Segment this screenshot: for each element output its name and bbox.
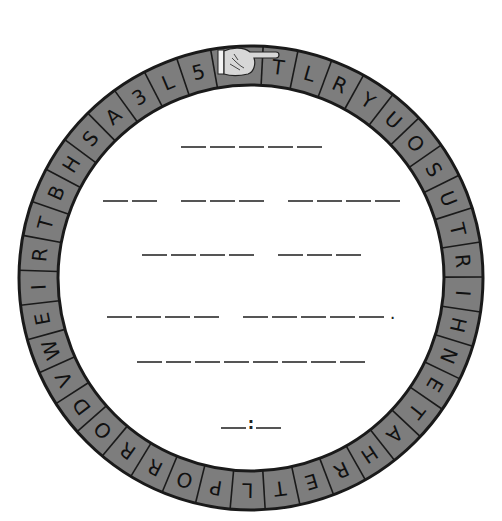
letter-blank[interactable] — [194, 316, 219, 318]
letter-blank[interactable] — [307, 254, 332, 256]
puzzle-word — [142, 254, 254, 256]
puzzle-area: .: — [0, 0, 502, 521]
letter-blank[interactable] — [375, 200, 400, 202]
letter-blank[interactable] — [181, 146, 206, 148]
letter-blank[interactable] — [195, 361, 220, 363]
puzzle-row — [0, 361, 502, 363]
letter-blank[interactable] — [340, 361, 365, 363]
letter-blank[interactable] — [243, 316, 268, 318]
letter-blank[interactable] — [278, 254, 303, 256]
puzzle-word — [288, 200, 400, 202]
puzzle-word — [107, 316, 219, 318]
colon-mark: : — [248, 419, 254, 429]
letter-blank[interactable] — [200, 254, 225, 256]
letter-blank[interactable] — [297, 146, 322, 148]
letter-blank[interactable] — [136, 316, 161, 318]
letter-blank[interactable] — [107, 316, 132, 318]
letter-blank[interactable] — [239, 146, 264, 148]
letter-blank[interactable] — [210, 200, 235, 202]
puzzle-row — [0, 200, 502, 202]
puzzle-word — [103, 200, 157, 202]
letter-blank[interactable] — [210, 146, 235, 148]
letter-blank[interactable] — [181, 200, 206, 202]
puzzle-row — [0, 254, 502, 256]
puzzle-word — [181, 200, 264, 202]
letter-blank[interactable] — [301, 316, 326, 318]
puzzle-row — [0, 146, 502, 148]
puzzle-word — [181, 146, 322, 148]
letter-blank[interactable] — [142, 254, 167, 256]
letter-blank[interactable] — [268, 146, 293, 148]
puzzle-word — [221, 427, 246, 429]
puzzle-row: : — [0, 419, 502, 429]
period-mark: . — [390, 308, 396, 318]
letter-blank[interactable] — [346, 200, 371, 202]
letter-blank[interactable] — [229, 254, 254, 256]
letter-blank[interactable] — [239, 200, 264, 202]
letter-blank[interactable] — [317, 200, 342, 202]
letter-blank[interactable] — [137, 361, 162, 363]
letter-blank[interactable] — [253, 361, 278, 363]
puzzle-word — [256, 427, 281, 429]
letter-blank[interactable] — [256, 427, 281, 429]
letter-blank[interactable] — [166, 361, 191, 363]
letter-blank[interactable] — [336, 254, 361, 256]
letter-blank[interactable] — [103, 200, 128, 202]
puzzle-word — [137, 361, 365, 363]
puzzle-word — [278, 254, 361, 256]
letter-blank[interactable] — [359, 316, 384, 318]
letter-blank[interactable] — [221, 427, 246, 429]
letter-blank[interactable] — [132, 200, 157, 202]
letter-blank[interactable] — [311, 361, 336, 363]
puzzle-word: . — [243, 308, 396, 318]
puzzle-row: . — [0, 308, 502, 318]
letter-blank[interactable] — [288, 200, 313, 202]
letter-blank[interactable] — [282, 361, 307, 363]
letter-blank[interactable] — [171, 254, 196, 256]
letter-blank[interactable] — [224, 361, 249, 363]
letter-blank[interactable] — [330, 316, 355, 318]
letter-blank[interactable] — [165, 316, 190, 318]
letter-blank[interactable] — [272, 316, 297, 318]
